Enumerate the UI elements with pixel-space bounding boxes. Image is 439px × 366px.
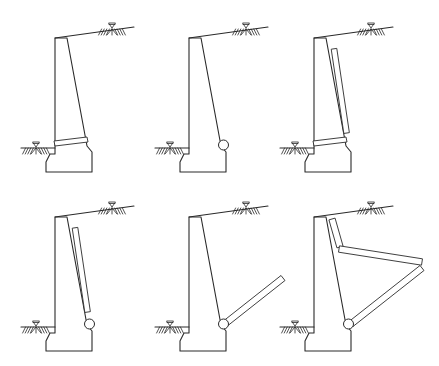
soil-hatching-icon	[157, 148, 184, 154]
drain-pipe-icon	[344, 319, 354, 329]
soil-hatching-icon	[282, 327, 309, 333]
water-level-icon	[109, 23, 116, 28]
drainage-board	[72, 227, 90, 312]
soil-hatching-icon	[99, 29, 126, 35]
inclined-drain-layer	[224, 275, 285, 325]
soil-hatching-icon	[23, 327, 50, 333]
panel-e	[155, 202, 285, 351]
drain-pipe-icon	[85, 319, 95, 329]
drain-pipe-icon	[219, 319, 229, 329]
water-level-icon	[368, 202, 375, 207]
retaining-wall-outline	[180, 38, 226, 172]
backfill-surface-line	[55, 206, 134, 217]
water-level-icon	[292, 142, 299, 147]
panel-c	[280, 23, 393, 172]
soil-hatching-icon	[282, 148, 309, 154]
diagram-canvas	[0, 0, 439, 366]
water-level-icon	[109, 202, 116, 207]
water-level-icon	[33, 142, 40, 147]
retaining-wall-outline	[46, 38, 92, 172]
soil-hatching-icon	[233, 29, 260, 35]
water-level-icon	[243, 23, 250, 28]
soil-hatching-icon	[157, 327, 184, 333]
retaining-wall-outline	[305, 217, 351, 351]
weep-hole-band	[54, 137, 88, 146]
soil-hatching-icon	[23, 148, 50, 154]
horizontal-drain-layer	[339, 246, 423, 265]
backfill-surface-line	[189, 27, 268, 38]
water-level-icon	[167, 142, 174, 147]
weep-hole-band	[313, 137, 347, 146]
soil-hatching-icon	[358, 208, 385, 214]
retaining-wall-outline	[180, 217, 226, 351]
water-level-icon	[33, 321, 40, 326]
drainage-board	[331, 48, 349, 133]
water-level-icon	[368, 23, 375, 28]
water-level-icon	[167, 321, 174, 326]
backfill-surface-line	[189, 206, 268, 217]
panel-f	[280, 202, 424, 351]
retaining-wall-diagram	[0, 0, 439, 366]
water-level-icon	[243, 202, 250, 207]
water-level-icon	[292, 321, 299, 326]
backfill-surface-line	[314, 27, 393, 38]
drain-pipe-icon	[219, 140, 229, 150]
soil-hatching-icon	[233, 208, 260, 214]
panel-d	[21, 202, 134, 351]
backfill-surface-line	[55, 27, 134, 38]
soil-hatching-icon	[99, 208, 126, 214]
panel-b	[155, 23, 268, 172]
panel-a	[21, 23, 134, 172]
inclined-drain-layer	[349, 265, 424, 326]
soil-hatching-icon	[358, 29, 385, 35]
backfill-surface-line	[314, 206, 393, 217]
